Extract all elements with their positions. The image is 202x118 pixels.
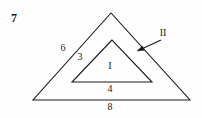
figure-canvas xyxy=(0,0,202,118)
outer-base-length-label: 8 xyxy=(108,102,113,112)
problem-number: 7 xyxy=(11,12,17,24)
geometry-figure: 7 6 3 4 8 I II xyxy=(0,0,202,118)
region-ii-arrow-line xyxy=(142,40,161,49)
region-label-i: I xyxy=(108,61,111,71)
outer-left-side-length-label: 6 xyxy=(61,43,66,53)
inner-triangle xyxy=(72,40,152,82)
region-label-ii: II xyxy=(160,28,167,38)
region-ii-arrow-head xyxy=(137,46,144,51)
inner-triangle-shape xyxy=(72,40,152,82)
inner-left-side-length-label: 3 xyxy=(78,52,83,62)
inner-base-length-label: 4 xyxy=(108,84,113,94)
